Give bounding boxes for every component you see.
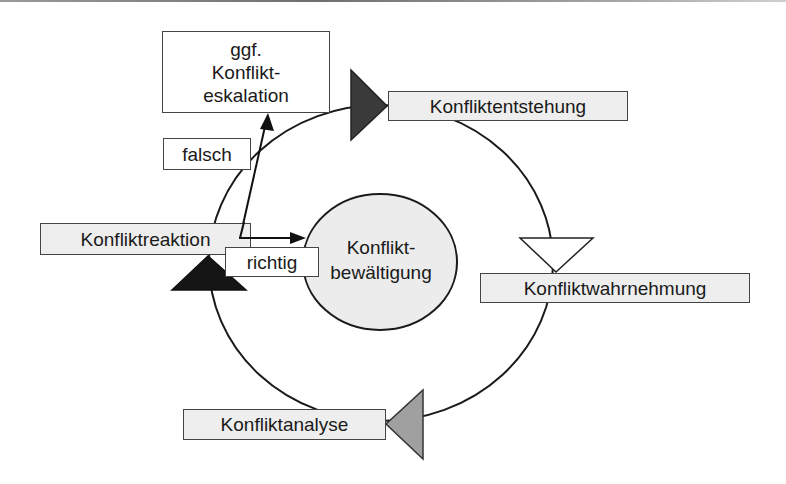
stage-entstehung-label: Konfliktentstehung [430, 97, 586, 116]
center-label-line1: Konflikt- [308, 235, 454, 260]
falsch-label-box: falsch [163, 138, 251, 170]
center-label-line2: bewältigung [308, 260, 454, 285]
escalation-line2: Konflikt- [212, 61, 281, 84]
falsch-label: falsch [182, 145, 232, 164]
wahrnehmung-marker-icon [520, 238, 593, 272]
stage-reaktion: Konfliktreaktion [40, 223, 251, 255]
center-label: Konflikt- bewältigung [308, 235, 454, 285]
analyse-marker-icon [386, 390, 423, 459]
stage-wahrnehmung: Konfliktwahrnehmung [480, 273, 750, 303]
stage-reaktion-label: Konfliktreaktion [81, 230, 211, 249]
richtig-arrowhead-icon [290, 232, 306, 244]
stage-entstehung: Konfliktentstehung [388, 91, 628, 121]
falsch-arrowhead-icon [260, 113, 274, 131]
stage-wahrnehmung-label: Konfliktwahrnehmung [524, 279, 707, 298]
escalation-box: ggf. Konflikt- eskalation [162, 31, 330, 113]
richtig-label-box: richtig [225, 247, 319, 277]
escalation-line1: ggf. [230, 38, 262, 61]
richtig-label: richtig [247, 253, 298, 272]
escalation-line3: eskalation [203, 84, 289, 107]
stage-analyse-label: Konfliktanalyse [221, 415, 349, 434]
entstehung-marker-icon [351, 70, 387, 140]
stage-analyse: Konfliktanalyse [183, 409, 386, 440]
